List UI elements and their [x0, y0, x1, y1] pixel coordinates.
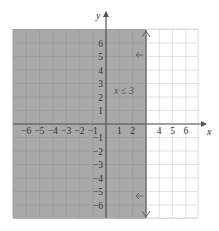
y-tick-label: −4 — [93, 174, 103, 184]
y-tick-label: −1 — [93, 133, 103, 143]
inequality-label: x ≤ 3 — [113, 85, 134, 96]
x-tick-label: −4 — [48, 126, 58, 136]
y-tick-label: −2 — [93, 147, 103, 157]
x-tick-label: −2 — [74, 126, 84, 136]
x-tick-label: −6 — [21, 126, 31, 136]
x-tick-label: 6 — [183, 126, 188, 136]
y-tick-label: −6 — [93, 201, 103, 211]
y-tick-label: 1 — [98, 106, 103, 116]
inequality-graph: y x x ≤ 3 −6−5−4−3−2−112456 654321−1−2−3… — [0, 0, 219, 231]
x-tick-label: −3 — [61, 126, 71, 136]
y-tick-label: −3 — [93, 160, 103, 170]
x-tick-label: 5 — [170, 126, 175, 136]
x-tick-label: 2 — [130, 126, 135, 136]
x-tick-label: 1 — [117, 126, 122, 136]
y-tick-label: 5 — [98, 52, 103, 62]
x-axis-label: x — [206, 126, 212, 137]
x-tick-label: −5 — [34, 126, 44, 136]
y-tick-label: −5 — [93, 187, 103, 197]
y-axis-label: y — [95, 10, 101, 21]
y-tick-label: 4 — [98, 66, 103, 76]
y-tick-label: 3 — [98, 79, 103, 89]
x-tick-label: 4 — [157, 126, 162, 136]
y-tick-label: 2 — [98, 93, 103, 103]
y-tick-label: 6 — [98, 39, 103, 49]
